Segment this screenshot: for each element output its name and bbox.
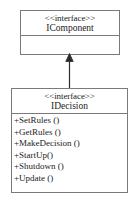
class-member: +StartUp()	[14, 150, 127, 162]
class-member: +Shutdown ()	[14, 161, 127, 173]
members-compartment-icomponent	[21, 36, 119, 49]
class-member: +MakeDecision ()	[14, 138, 127, 150]
generalization-connector	[63, 53, 76, 89]
stereotype-label: <<interface>>	[21, 13, 119, 23]
class-header-icomponent: <<interface>> IComponent	[21, 11, 119, 35]
class-name-label: IComponent	[21, 23, 119, 34]
uml-class-diagram: <<interface>> IComponent <<interface>> I…	[0, 0, 136, 198]
class-member: +Update ()	[14, 173, 127, 185]
members-compartment-idecision: +SetRules () +GetRules () +MakeDecision …	[12, 114, 127, 185]
class-name-label: IDecision	[12, 101, 127, 112]
uml-class-icomponent[interactable]: <<interface>> IComponent	[20, 10, 120, 55]
stereotype-label: <<interface>>	[12, 91, 127, 101]
class-member: +SetRules ()	[14, 115, 127, 127]
class-member: +GetRules ()	[14, 127, 127, 139]
class-header-idecision: <<interface>> IDecision	[12, 89, 127, 113]
uml-class-idecision[interactable]: <<interface>> IDecision +SetRules () +Ge…	[11, 88, 128, 193]
